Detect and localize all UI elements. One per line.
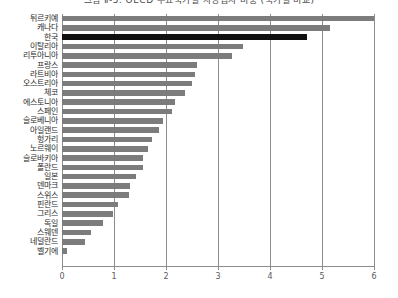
category-label: 노르웨이 [0, 144, 58, 153]
bar [62, 72, 195, 78]
bar [62, 16, 374, 22]
chart-row: 캐나다 [0, 23, 398, 32]
x-tick-mark-1 [114, 266, 115, 270]
category-label: 이탈리아 [0, 42, 58, 51]
chart-row: 노르웨이 [0, 144, 398, 153]
bar [62, 99, 175, 105]
chart-row: 독일 [0, 219, 398, 228]
chart-row: 네덜란드 [0, 237, 398, 246]
chart-row: 벨기에 [0, 247, 398, 256]
x-tick-mark-4 [270, 266, 271, 270]
category-label: 체코 [0, 88, 58, 97]
x-tick-label-2: 2 [156, 272, 176, 281]
chart-title: 그림 Ⅱ-5. OECD 주요국가별 자영업자 비중 (국가별 비교) [0, 0, 398, 5]
chart-row: 오스트리아 [0, 79, 398, 88]
x-tick-mark-6 [374, 266, 375, 270]
chart-row: 슬로바키아 [0, 154, 398, 163]
x-tick-label-6: 6 [364, 272, 384, 281]
chart-row: 그리스 [0, 209, 398, 218]
category-label: 한국 [0, 33, 58, 42]
category-label: 아일랜드 [0, 126, 58, 135]
category-label: 스위스 [0, 191, 58, 200]
bar [62, 155, 143, 161]
category-label: 스페인 [0, 107, 58, 116]
bar [62, 220, 103, 226]
bar [62, 127, 159, 133]
chart-row: 튀르키예 [0, 14, 398, 23]
x-tick-label-4: 4 [260, 272, 280, 281]
chart-row: 스페인 [0, 107, 398, 116]
bar [62, 146, 148, 152]
bar [62, 165, 143, 171]
category-label: 헝가리 [0, 135, 58, 144]
category-label: 슬로바키아 [0, 154, 58, 163]
category-label: 에스토니아 [0, 98, 58, 107]
category-label: 슬로베니아 [0, 116, 58, 125]
bar [62, 118, 163, 124]
bar [62, 90, 185, 96]
x-tick-label-5: 5 [312, 272, 332, 281]
category-label: 오스트리아 [0, 79, 58, 88]
category-label: 벨기에 [0, 247, 58, 256]
bar [62, 62, 197, 68]
category-label: 핀란드 [0, 200, 58, 209]
category-label: 라트비아 [0, 70, 58, 79]
category-label: 폴란드 [0, 163, 58, 172]
bar [62, 25, 330, 31]
category-label: 캐나다 [0, 23, 58, 32]
category-label: 일본 [0, 172, 58, 181]
bar [62, 230, 91, 236]
bar [62, 53, 232, 59]
chart-row: 핀란드 [0, 200, 398, 209]
category-label: 덴마크 [0, 181, 58, 190]
chart-row: 일본 [0, 172, 398, 181]
bar [62, 211, 113, 217]
bar [62, 44, 243, 50]
x-tick-label-3: 3 [208, 272, 228, 281]
bar [62, 109, 172, 115]
bar [62, 202, 118, 208]
chart-row: 프랑스 [0, 61, 398, 70]
chart-row: 폴란드 [0, 163, 398, 172]
x-tick-mark-5 [322, 266, 323, 270]
bar [62, 137, 152, 143]
x-tick-label-1: 1 [104, 272, 124, 281]
bar [62, 248, 67, 254]
category-label: 독일 [0, 219, 58, 228]
chart-row: 스위스 [0, 191, 398, 200]
bar [62, 239, 85, 245]
bar-chart: 그림 Ⅱ-5. OECD 주요국가별 자영업자 비중 (국가별 비교) 0123… [0, 0, 398, 298]
category-label: 스웨덴 [0, 228, 58, 237]
x-tick-label-0: 0 [52, 272, 72, 281]
chart-row: 덴마크 [0, 181, 398, 190]
chart-row: 한국 [0, 33, 398, 42]
bar [62, 81, 192, 87]
bar-highlighted [62, 34, 307, 40]
category-label: 프랑스 [0, 61, 58, 70]
category-label: 그리스 [0, 209, 58, 218]
chart-row: 슬로베니아 [0, 116, 398, 125]
chart-row: 헝가리 [0, 135, 398, 144]
category-label: 리투아니아 [0, 51, 58, 60]
chart-row: 이탈리아 [0, 42, 398, 51]
x-tick-mark-2 [166, 266, 167, 270]
x-tick-mark-3 [218, 266, 219, 270]
chart-row: 에스토니아 [0, 98, 398, 107]
chart-row: 체코 [0, 88, 398, 97]
chart-row: 스웨덴 [0, 228, 398, 237]
chart-row: 리투아니아 [0, 51, 398, 60]
category-label: 네덜란드 [0, 237, 58, 246]
x-tick-mark-0 [62, 266, 63, 270]
chart-row: 아일랜드 [0, 126, 398, 135]
category-label: 튀르키예 [0, 14, 58, 23]
chart-row: 라트비아 [0, 70, 398, 79]
bar [62, 183, 130, 189]
bar [62, 192, 129, 198]
bar [62, 174, 136, 180]
